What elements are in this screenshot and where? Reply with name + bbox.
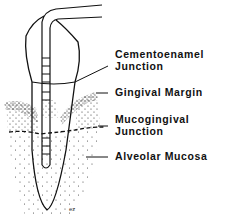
label-cej: Cementoenamel Junction: [115, 48, 204, 72]
crown-outline: [26, 16, 80, 82]
label-mucogingival-line1: Mucogingival: [115, 113, 189, 125]
label-mucogingival-junction: Mucogingival Junction: [115, 113, 189, 137]
label-alveolar-mucosa: Alveolar Mucosa: [115, 150, 207, 162]
label-gingival-margin: Gingival Margin: [115, 86, 203, 98]
tooth-illustration: ez: [0, 0, 247, 222]
cej-line: [32, 82, 75, 84]
label-mucogingival-line2: Junction: [115, 125, 189, 137]
label-alveolar-mucosa-text: Alveolar Mucosa: [115, 150, 207, 162]
tooth-probe-diagram: ez Cementoenamel Junction Gingival Margi…: [0, 0, 247, 222]
alveolar-mucosa-region: [8, 128, 100, 215]
leader-cej: [75, 66, 108, 82]
label-cej-line2: Junction: [115, 60, 204, 72]
artist-signature: ez: [69, 206, 75, 212]
label-cej-line1: Cementoenamel: [115, 48, 204, 60]
label-gingival-margin-text: Gingival Margin: [115, 86, 203, 98]
